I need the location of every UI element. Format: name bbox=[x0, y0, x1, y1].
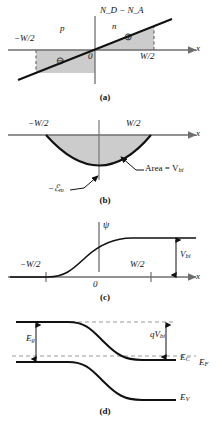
p-region-label: p bbox=[60, 24, 65, 33]
panel-a-y-axis-label: N_D − N_A bbox=[100, 6, 144, 15]
panel-a-charge-density bbox=[8, 16, 196, 84]
band-bending-label: qVbi bbox=[150, 330, 165, 340]
fermi-level-label: EF bbox=[199, 358, 208, 368]
bandgap-label: Eg bbox=[26, 334, 35, 344]
panel-d-band-diagram bbox=[12, 322, 196, 400]
panel-b-electric-field bbox=[8, 120, 196, 190]
psi-axis-label: ψ bbox=[103, 220, 109, 230]
panel-c-potential bbox=[8, 222, 196, 282]
area-label: Area = Vbi bbox=[145, 164, 183, 174]
positive-charge-symbol: ⊕ bbox=[124, 32, 132, 42]
negative-charge-symbol: ⊖ bbox=[56, 56, 64, 66]
panel-a-x-axis-label: x bbox=[196, 44, 200, 53]
panel-a-pos-half-w-label: W/2 bbox=[140, 52, 155, 61]
panel-c-label: (c) bbox=[85, 292, 125, 302]
nd-na-label: N_D − N_A bbox=[100, 5, 144, 15]
valence-band-label: EV bbox=[180, 393, 189, 403]
panel-c-neg-half-w-label: −W/2 bbox=[20, 260, 41, 269]
panel-a-origin-label: 0 bbox=[88, 52, 93, 61]
valence-band-curve bbox=[16, 362, 176, 400]
panel-c-x-axis-label: x bbox=[196, 272, 200, 281]
potential-curve bbox=[10, 238, 196, 277]
panel-b-label: (b) bbox=[85, 195, 125, 205]
panel-a-label: (a) bbox=[85, 92, 125, 102]
panel-a-neg-half-w-label: −W/2 bbox=[14, 34, 35, 43]
peak-field-leader bbox=[84, 176, 98, 188]
panel-b-pos-half-w-label: W/2 bbox=[126, 119, 141, 128]
figure-canvas bbox=[0, 0, 222, 427]
area-leader bbox=[121, 157, 136, 170]
n-region-label: n bbox=[112, 22, 117, 31]
pn-junction-figure: N_D − N_A p n −W/2 0 W/2 ⊖ ⊕ x (a) −W/2 … bbox=[0, 0, 222, 427]
peak-field-leader-tail bbox=[70, 188, 84, 190]
panel-c-pos-half-w-label: W/2 bbox=[130, 260, 145, 269]
built-in-potential-label: Vbi bbox=[180, 250, 191, 260]
conduction-band-curve bbox=[16, 322, 176, 360]
panel-b-neg-half-w-label: −W/2 bbox=[28, 119, 49, 128]
peak-field-label: −ℰm bbox=[48, 184, 64, 194]
panel-d-label: (d) bbox=[85, 406, 125, 416]
panel-b-x-axis-label: x bbox=[196, 129, 200, 138]
panel-c-origin-label: 0 bbox=[93, 280, 98, 289]
conduction-band-label: EC bbox=[180, 353, 190, 363]
